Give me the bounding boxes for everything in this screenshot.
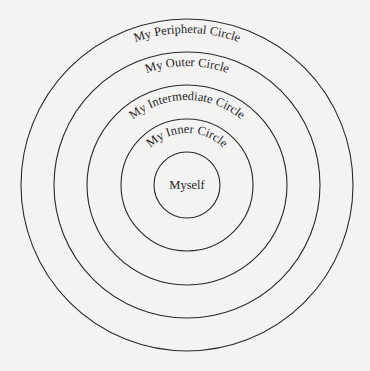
label-outer-circle: My Outer Circle: [143, 55, 231, 76]
concentric-circles-diagram: My Inner Circle My Intermediate Circle M…: [0, 0, 370, 371]
label-myself: Myself: [169, 178, 205, 192]
label-peripheral-circle: My Peripheral Circle: [132, 22, 243, 45]
